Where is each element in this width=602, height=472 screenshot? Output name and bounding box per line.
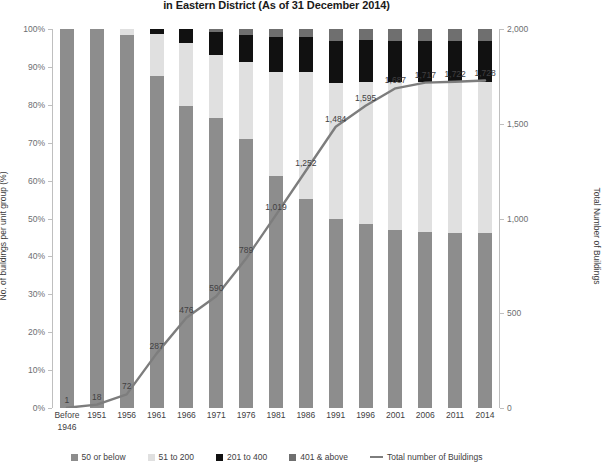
bar-segment <box>179 43 193 106</box>
left-axis-tick-label: 60% <box>28 176 45 186</box>
bar-column[interactable] <box>418 29 432 408</box>
legend-color-swatch <box>148 454 155 461</box>
line-point-label: 1,595 <box>355 93 376 103</box>
bar-segment <box>239 35 253 62</box>
bar-column[interactable] <box>150 29 164 408</box>
right-axis-tick <box>500 313 504 314</box>
bar-segment <box>388 29 402 41</box>
category-label: 1956 <box>112 410 142 422</box>
category-label: 1981 <box>261 410 291 422</box>
left-axis-title: No. of buildings per unit group (%) <box>0 172 8 301</box>
line-point-label: 1 <box>65 395 70 405</box>
legend-line-swatch <box>370 456 383 458</box>
bar-column[interactable] <box>388 29 402 408</box>
category-axis-labels: Before 194619511956196119661971197619811… <box>52 410 500 446</box>
bar-segment <box>299 37 313 71</box>
bar-segment <box>388 82 402 230</box>
line-point-label: 287 <box>149 341 163 351</box>
bar-column[interactable] <box>179 29 193 408</box>
right-axis-tick-label: 2,000 <box>507 24 528 34</box>
category-label: 1996 <box>351 410 381 422</box>
category-label: 1976 <box>231 410 261 422</box>
bar-segment <box>150 29 164 34</box>
line-point-label: 590 <box>209 283 223 293</box>
bar-segment <box>418 232 432 408</box>
category-label: 1966 <box>171 410 201 422</box>
right-axis-tick <box>500 29 504 30</box>
bar-segment <box>179 106 193 408</box>
bar-segment <box>329 41 343 83</box>
legend-label: 401 & above <box>300 452 348 462</box>
line-point-label: 1,722 <box>445 69 466 79</box>
bar-column[interactable] <box>120 29 134 408</box>
bar-segment <box>90 29 104 408</box>
bar-column[interactable] <box>60 29 74 408</box>
bar-segment <box>478 82 492 232</box>
bar-segment <box>150 76 164 408</box>
bar-column[interactable] <box>299 29 313 408</box>
bar-segment <box>299 199 313 408</box>
legend-item[interactable]: 401 & above <box>289 452 348 462</box>
line-point-label: 789 <box>239 245 253 255</box>
plot-area: 0%10%20%30%40%50%60%70%80%90%100% 05001,… <box>52 29 500 408</box>
line-point-label: 1,019 <box>265 202 286 212</box>
bar-segment <box>359 82 373 224</box>
bar-segment <box>478 29 492 41</box>
left-axis-tick-label: 50% <box>28 214 45 224</box>
legend-label: Total number of Buildings <box>387 452 482 462</box>
bar-segment <box>299 29 313 37</box>
left-axis-tick-label: 80% <box>28 100 45 110</box>
left-axis-tick <box>48 408 52 409</box>
bar-segment <box>329 83 343 219</box>
line-point-label: 72 <box>122 381 131 391</box>
category-label: 1961 <box>142 410 172 422</box>
right-axis-title: Total Number of Buildings <box>592 188 602 285</box>
category-label: 2006 <box>410 410 440 422</box>
category-label: 2014 <box>470 410 500 422</box>
bar-column[interactable] <box>448 29 462 408</box>
bar-column[interactable] <box>90 29 104 408</box>
bar-segment <box>269 29 283 37</box>
bar-segment <box>60 29 74 408</box>
bar-column[interactable] <box>269 29 283 408</box>
bar-column[interactable] <box>239 29 253 408</box>
chart-legend: 50 or below51 to 200201 to 400401 & abov… <box>0 452 553 462</box>
right-axis-tick-label: 1,000 <box>507 214 528 224</box>
legend-item[interactable]: Total number of Buildings <box>370 452 482 462</box>
line-point-label: 476 <box>179 305 193 315</box>
bar-segment <box>448 233 462 408</box>
bar-segment <box>448 29 462 41</box>
right-axis-tick-label: 0 <box>507 403 512 413</box>
left-axis-tick-label: 10% <box>28 365 45 375</box>
left-axis-tick-label: 100% <box>23 24 45 34</box>
bar-column[interactable] <box>359 29 373 408</box>
bar-segment <box>329 29 343 41</box>
line-point-label: 1,728 <box>474 68 495 78</box>
right-axis-tick <box>500 124 504 125</box>
bar-segment <box>359 29 373 40</box>
left-axis-tick-label: 30% <box>28 289 45 299</box>
category-label: Before 1946 <box>52 410 82 433</box>
legend-label: 50 or below <box>82 452 126 462</box>
bar-segment <box>269 37 283 71</box>
bar-column[interactable] <box>478 29 492 408</box>
bar-segment <box>359 224 373 408</box>
left-axis-tick-label: 20% <box>28 327 45 337</box>
line-point-label: 1,484 <box>325 114 346 124</box>
line-point-label: 1,687 <box>385 75 406 85</box>
legend-color-swatch <box>71 454 78 461</box>
legend-item[interactable]: 201 to 400 <box>216 452 267 462</box>
right-axis-tick <box>500 219 504 220</box>
bar-segment <box>120 35 134 408</box>
legend-item[interactable]: 50 or below <box>71 452 126 462</box>
category-label: 1991 <box>321 410 351 422</box>
right-axis-tick <box>500 408 504 409</box>
bar-column[interactable] <box>329 29 343 408</box>
line-point-label: 1,252 <box>295 158 316 168</box>
bar-segment <box>448 82 462 232</box>
bar-segment <box>209 29 223 32</box>
left-axis-tick-label: 0% <box>33 403 45 413</box>
legend-item[interactable]: 51 to 200 <box>148 452 194 462</box>
bar-column[interactable] <box>209 29 223 408</box>
legend-color-swatch <box>216 454 223 461</box>
